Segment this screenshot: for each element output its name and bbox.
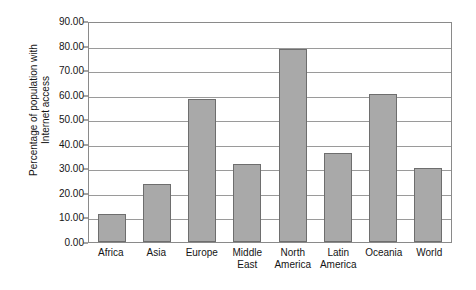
bar-slot bbox=[134, 23, 179, 242]
y-axis-tick-label: 60.00 bbox=[44, 91, 84, 101]
bar[interactable] bbox=[143, 184, 171, 242]
x-axis-tick-label: Europe bbox=[179, 247, 225, 271]
bar-slot bbox=[270, 23, 315, 242]
y-axis-tick-labels: 0.0010.0020.0030.0040.0050.0060.0070.008… bbox=[44, 22, 84, 243]
bar-series bbox=[89, 23, 451, 242]
x-axis-tick-label-line: North bbox=[270, 247, 316, 259]
x-axis-tick-label-line: Africa bbox=[88, 247, 134, 259]
x-axis-tick-label: LatinAmerica bbox=[316, 247, 362, 271]
y-axis-tick-label: 50.00 bbox=[44, 115, 84, 125]
bar-slot bbox=[315, 23, 360, 242]
x-axis-tick-label: MiddleEast bbox=[225, 247, 271, 271]
x-axis-tick-label-line: Oceania bbox=[361, 247, 407, 259]
x-axis-tick-label-line: America bbox=[316, 259, 362, 271]
x-axis-tick-label-line: Europe bbox=[179, 247, 225, 259]
y-axis-tick-label: 0.00 bbox=[44, 238, 84, 248]
bar[interactable] bbox=[279, 49, 307, 242]
x-axis-tick-label-line: America bbox=[270, 259, 316, 271]
y-axis-tick-label: 90.00 bbox=[44, 17, 84, 27]
x-axis-tick-labels: AfricaAsiaEuropeMiddleEastNorthAmericaLa… bbox=[88, 247, 452, 271]
bar-slot bbox=[180, 23, 225, 242]
bar[interactable] bbox=[414, 168, 442, 242]
y-axis-tick-label: 40.00 bbox=[44, 140, 84, 150]
bar-slot bbox=[361, 23, 406, 242]
bar-slot bbox=[225, 23, 270, 242]
y-axis-tick-label: 20.00 bbox=[44, 189, 84, 199]
bar[interactable] bbox=[324, 153, 352, 242]
bar[interactable] bbox=[369, 94, 397, 242]
x-axis-tick-label-line: East bbox=[225, 259, 271, 271]
bar[interactable] bbox=[233, 164, 261, 242]
bar-slot bbox=[406, 23, 451, 242]
x-axis-tick-label-line: Middle bbox=[225, 247, 271, 259]
x-axis-tick-label: Oceania bbox=[361, 247, 407, 271]
y-axis-title-line-1: Percentage of population with bbox=[28, 44, 40, 176]
bar[interactable] bbox=[98, 214, 126, 242]
x-axis-tick-label-line: World bbox=[407, 247, 453, 259]
x-axis-tick-label: Africa bbox=[88, 247, 134, 271]
y-axis-tick-label: 10.00 bbox=[44, 213, 84, 223]
plot-area bbox=[88, 22, 452, 243]
x-axis-tick-label: World bbox=[407, 247, 453, 271]
y-axis-tick-label: 30.00 bbox=[44, 164, 84, 174]
bar[interactable] bbox=[188, 99, 216, 242]
x-axis-tick-label: NorthAmerica bbox=[270, 247, 316, 271]
x-axis-tick-label-line: Latin bbox=[316, 247, 362, 259]
bar-slot bbox=[89, 23, 134, 242]
y-axis-tick-label: 80.00 bbox=[44, 42, 84, 52]
x-axis-tick-label: Asia bbox=[134, 247, 180, 271]
bar-chart: Percentage of population with Internet a… bbox=[0, 0, 476, 290]
y-axis-tick-label: 70.00 bbox=[44, 66, 84, 76]
x-axis-tick-label-line: Asia bbox=[134, 247, 180, 259]
